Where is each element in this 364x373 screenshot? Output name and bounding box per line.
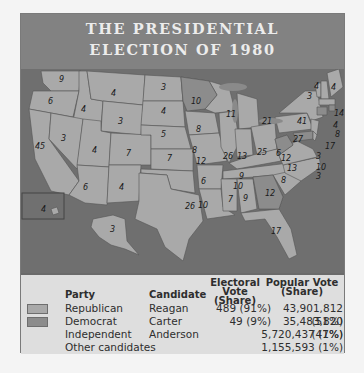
svg-text:8: 8: [192, 146, 197, 155]
svg-text:3: 3: [307, 92, 312, 101]
svg-text:10: 10: [198, 201, 208, 210]
svg-text:17: 17: [271, 227, 282, 236]
svg-text:4: 4: [314, 82, 319, 91]
svg-text:10: 10: [233, 182, 243, 191]
header-candidate: Candidate: [149, 288, 206, 301]
svg-text:27: 27: [293, 135, 304, 144]
democrat-color-swatch: [27, 317, 48, 327]
party-name: Independent: [65, 328, 132, 341]
svg-text:9: 9: [59, 75, 64, 84]
state-nh: [321, 81, 329, 99]
svg-text:8: 8: [281, 176, 286, 185]
state-ct: [317, 107, 327, 115]
legend-row-republican: Republican Reagan 489 (91%) 43,901,812 (…: [21, 302, 344, 315]
svg-text:3: 3: [316, 172, 321, 181]
svg-text:3: 3: [161, 83, 166, 92]
svg-text:6: 6: [276, 149, 281, 158]
svg-text:3: 3: [61, 134, 66, 143]
svg-text:4: 4: [119, 183, 124, 192]
legend-row-independent: Independent Anderson 5,720,437 (7%): [21, 328, 344, 341]
svg-text:14: 14: [334, 109, 344, 118]
state-ak: [91, 215, 139, 255]
title-line-1: THE PRESIDENTIAL: [21, 18, 344, 39]
svg-text:13: 13: [237, 152, 247, 161]
svg-text:17: 17: [325, 142, 336, 151]
svg-text:12: 12: [196, 157, 206, 166]
svg-text:25: 25: [257, 148, 267, 157]
party-name: Democrat: [65, 315, 117, 328]
svg-text:4: 4: [81, 105, 86, 114]
candidate-name: Reagan: [149, 302, 188, 315]
svg-text:10: 10: [191, 97, 201, 106]
svg-text:4: 4: [331, 83, 336, 92]
popular-vote: 5,720,437 (7%): [261, 328, 343, 341]
us-electoral-map: 9 6 45 4 3 4 3 4 6 7 4 3 4 5 7 8 26 10 8…: [21, 69, 344, 273]
svg-text:4: 4: [161, 107, 166, 116]
svg-text:10: 10: [316, 163, 326, 172]
svg-text:9: 9: [239, 172, 244, 181]
state-ma: [319, 99, 335, 105]
svg-text:4: 4: [111, 89, 116, 98]
header-popular-l2: (Share): [261, 287, 343, 296]
lake-superior: [219, 83, 247, 91]
svg-text:8: 8: [335, 130, 340, 139]
svg-text:12: 12: [281, 154, 291, 163]
state-mt: [87, 71, 145, 105]
header-popular-vote: Popular Vote (Share): [261, 278, 343, 296]
legend-row-democrat: Democrat Carter 49 (9%) 35,483,820 (41%): [21, 315, 344, 328]
svg-text:4: 4: [41, 205, 46, 214]
svg-text:6: 6: [83, 183, 88, 192]
legend-row-other: Other candidates 1,155,593 (1%): [21, 341, 344, 354]
svg-text:41: 41: [297, 117, 307, 126]
svg-text:12: 12: [265, 189, 275, 198]
svg-text:4: 4: [92, 146, 97, 155]
svg-text:45: 45: [35, 142, 45, 151]
svg-text:26: 26: [185, 202, 195, 211]
svg-text:6: 6: [48, 97, 53, 106]
svg-text:3: 3: [118, 117, 123, 126]
svg-text:21: 21: [262, 117, 272, 126]
svg-text:5: 5: [161, 130, 166, 139]
svg-text:13: 13: [287, 164, 297, 173]
party-name: Other candidates: [65, 341, 156, 354]
title-banner: THE PRESIDENTIAL ELECTION OF 1980: [21, 14, 344, 69]
state-fl: [241, 209, 297, 259]
party-name: Republican: [65, 302, 123, 315]
svg-text:3: 3: [316, 152, 321, 161]
svg-text:4: 4: [333, 121, 338, 130]
map-svg: 9 6 45 4 3 4 3 4 6 7 4 3 4 5 7 8 26 10 8…: [21, 69, 344, 273]
page-title: THE PRESIDENTIAL ELECTION OF 1980: [21, 14, 344, 60]
svg-text:9: 9: [243, 194, 248, 203]
results-legend-table: Party Candidate Electoral Vote (Share) P…: [21, 273, 344, 354]
legend-header-row: Party Candidate Electoral Vote (Share) P…: [21, 278, 344, 300]
candidate-name: Carter: [149, 315, 182, 328]
popular-vote: 1,155,593 (1%): [261, 341, 343, 354]
state-pa: [275, 113, 313, 133]
svg-text:6: 6: [201, 177, 206, 186]
header-party: Party: [65, 288, 95, 301]
svg-text:26: 26: [223, 152, 233, 161]
state-mi: [237, 93, 259, 129]
svg-text:8: 8: [196, 125, 201, 134]
svg-text:11: 11: [226, 110, 236, 119]
republican-color-swatch: [27, 304, 48, 314]
title-line-2: ELECTION OF 1980: [21, 39, 344, 60]
election-map-panel: THE PRESIDENTIAL ELECTION OF 1980: [20, 13, 345, 353]
candidate-name: Anderson: [149, 328, 199, 341]
svg-text:3: 3: [110, 225, 115, 234]
state-ia: [185, 111, 219, 135]
